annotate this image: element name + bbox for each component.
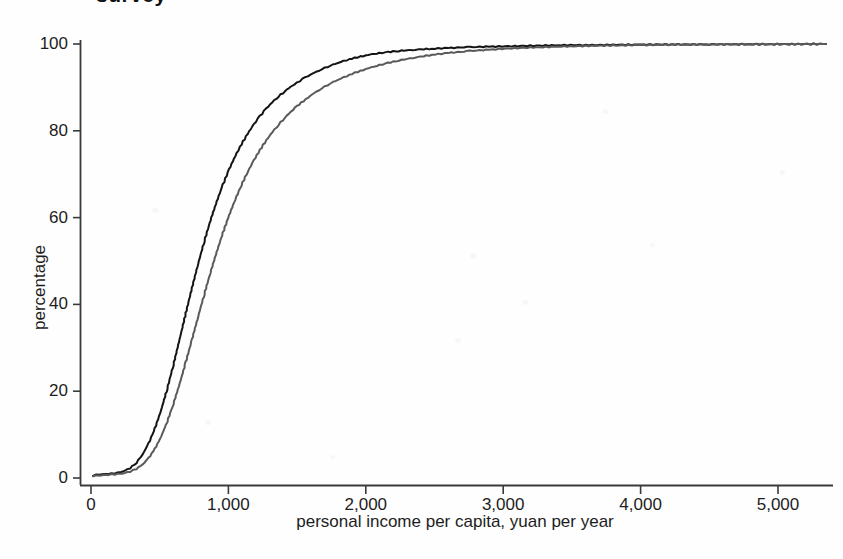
y-axis-title: percentage bbox=[30, 245, 50, 330]
data-series-group bbox=[93, 44, 826, 477]
plot-area bbox=[0, 0, 843, 559]
y-tick-label: 60 bbox=[28, 208, 68, 228]
x-tick-marks bbox=[91, 486, 778, 494]
y-tick-label: 20 bbox=[28, 381, 68, 401]
x-tick-label: 0 bbox=[86, 495, 95, 515]
y-tick-label: 0 bbox=[28, 468, 68, 488]
y-tick-label: 80 bbox=[28, 121, 68, 141]
x-tick-label: 1,000 bbox=[207, 495, 250, 515]
x-axis-title: personal income per capita, yuan per yea… bbox=[296, 512, 614, 532]
data-line-gray-curve bbox=[93, 44, 826, 477]
x-tick-label: 4,000 bbox=[619, 495, 662, 515]
axis-lines bbox=[80, 40, 833, 486]
x-tick-label: 5,000 bbox=[757, 495, 800, 515]
chart-figure: survey 020406080100 01,0002,0003,0004,00… bbox=[0, 0, 843, 559]
y-tick-label: 100 bbox=[28, 34, 68, 54]
data-line-black-curve bbox=[93, 44, 826, 476]
